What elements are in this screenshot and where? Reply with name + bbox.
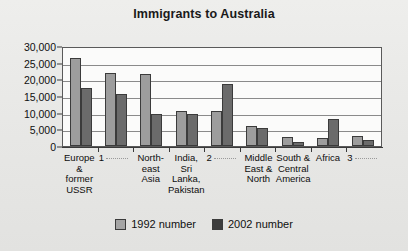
- legend-swatch: [115, 219, 126, 230]
- y-tick-mark: [57, 63, 62, 64]
- bar-group: [140, 48, 162, 146]
- y-tick-label: 30,000: [24, 41, 56, 53]
- x-tick-label: South &CentralAmerica: [276, 153, 311, 195]
- x-tick-label: Africa: [311, 153, 346, 195]
- legend-item: 1992 number: [115, 218, 196, 230]
- bar: [352, 136, 363, 146]
- x-tick-label: 3: [345, 153, 382, 195]
- x-tick-mark: [346, 148, 347, 152]
- x-tick-label: North-eastAsia: [133, 153, 168, 195]
- answer-blank: [214, 158, 236, 159]
- bar-group: [211, 48, 233, 146]
- y-tick-mark: [57, 80, 62, 81]
- bar-group: [282, 48, 304, 146]
- bar: [81, 88, 92, 146]
- chart-legend: 1992 number2002 number: [0, 218, 408, 230]
- bar: [363, 140, 374, 146]
- y-tick-label: 25,000: [24, 58, 56, 70]
- bar-group: [70, 48, 92, 146]
- y-tick-mark: [57, 113, 62, 114]
- y-tick-label: 20,000: [24, 74, 56, 86]
- bar-groups: [63, 48, 381, 146]
- x-tick-mark: [169, 148, 170, 152]
- x-tick-label: MiddleEast &North: [241, 153, 276, 195]
- bar: [105, 73, 116, 146]
- x-tick-mark: [240, 148, 241, 152]
- bar: [257, 128, 268, 146]
- chart-title: Immigrants to Australia: [0, 7, 408, 21]
- bar: [317, 138, 328, 146]
- bar: [176, 111, 187, 146]
- x-tick-mark: [133, 148, 134, 152]
- chart-figure: Immigrants to Australia 30,00025,00020,0…: [0, 0, 408, 251]
- y-tick-mark: [57, 97, 62, 98]
- y-tick-label: 0: [50, 141, 56, 153]
- x-tick-mark: [275, 148, 276, 152]
- x-tick-label: 1: [97, 153, 134, 195]
- bar: [293, 142, 304, 146]
- x-tick-mark: [98, 148, 99, 152]
- x-tick-label: Europe& formerUSSR: [62, 153, 97, 195]
- y-tick-mark: [57, 47, 62, 48]
- bar: [151, 114, 162, 146]
- y-tick-label: 15,000: [24, 91, 56, 103]
- bar: [116, 94, 127, 146]
- bar: [222, 84, 233, 146]
- answer-blank: [106, 158, 128, 159]
- legend-swatch: [212, 219, 223, 230]
- bar: [187, 114, 198, 146]
- x-axis-line: [62, 147, 383, 148]
- bar: [70, 58, 81, 146]
- bar-group: [176, 48, 198, 146]
- x-tick-mark: [204, 148, 205, 152]
- legend-item: 2002 number: [212, 218, 293, 230]
- x-tick-label: 2: [204, 153, 241, 195]
- x-axis-tick-labels: Europe& formerUSSR1North-eastAsiaIndia,S…: [62, 153, 382, 195]
- y-axis-tick-labels: 30,00025,00020,00015,00010,0005,0000: [0, 47, 56, 147]
- bar: [246, 126, 257, 146]
- bar: [282, 137, 293, 146]
- x-tick-mark: [311, 148, 312, 152]
- x-tick-label: India,SriLanka,Pakistan: [168, 153, 204, 195]
- y-tick-label: 5,000: [30, 124, 56, 136]
- bar-group: [317, 48, 339, 146]
- plot-area: [62, 47, 382, 147]
- legend-label: 1992 number: [131, 218, 196, 230]
- bar-group: [105, 48, 127, 146]
- bar: [140, 74, 151, 146]
- bar-group: [246, 48, 268, 146]
- y-tick-mark: [57, 130, 62, 131]
- bar: [328, 119, 339, 146]
- bar: [211, 111, 222, 146]
- bar-group: [352, 48, 374, 146]
- y-tick-mark: [57, 147, 62, 148]
- answer-blank: [355, 158, 377, 159]
- legend-label: 2002 number: [228, 218, 293, 230]
- y-tick-label: 10,000: [24, 108, 56, 120]
